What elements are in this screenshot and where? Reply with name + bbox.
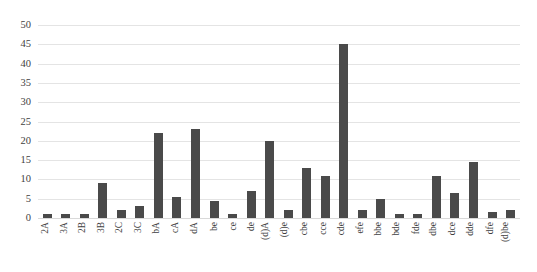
x-tick-label: dA	[190, 222, 200, 234]
x-tick-slot: efe	[353, 219, 372, 272]
x-tick-label: cbe	[300, 222, 310, 235]
x-tick-label: cde	[337, 222, 347, 235]
bar-slot	[149, 25, 168, 218]
bar[interactable]	[358, 210, 367, 218]
x-tick-slot: bde	[390, 219, 409, 272]
bar[interactable]	[321, 176, 330, 218]
x-tick-label: (d)be	[501, 222, 511, 242]
bar-slot	[75, 25, 94, 218]
x-tick-slot: bA	[149, 219, 168, 272]
y-tick-label: 45	[21, 39, 32, 50]
x-tick-slot: dde	[464, 219, 483, 272]
bar[interactable]	[172, 197, 181, 218]
x-tick-slot: be	[205, 219, 224, 272]
x-tick-label: 2B	[79, 222, 89, 233]
bar-slot	[372, 25, 391, 218]
x-tick-slot: bbe	[372, 219, 391, 272]
x-tick-label: bbe	[374, 222, 384, 236]
x-tick-slot: (d)be	[501, 219, 520, 272]
bar-slot	[427, 25, 446, 218]
bar-slot	[409, 25, 428, 218]
bar[interactable]	[98, 183, 107, 218]
bar[interactable]	[247, 191, 256, 218]
y-tick-label: 30	[21, 97, 32, 108]
bar[interactable]	[432, 176, 441, 218]
x-tick-slot: dA	[186, 219, 205, 272]
bar[interactable]	[450, 193, 459, 218]
x-tick-label: cA	[171, 222, 181, 233]
x-tick-label: bA	[153, 222, 163, 234]
bar[interactable]	[80, 214, 89, 218]
y-tick-label: 25	[21, 116, 32, 127]
bar[interactable]	[43, 214, 52, 218]
plot-area	[38, 25, 520, 218]
bar-slot	[57, 25, 76, 218]
x-tick-label: efe	[356, 222, 366, 234]
y-axis: 05101520253035404550	[0, 0, 38, 272]
bar-slot	[464, 25, 483, 218]
bar-slot	[297, 25, 316, 218]
bar[interactable]	[191, 129, 200, 218]
x-tick-label: be	[210, 222, 220, 231]
bar-slot	[168, 25, 187, 218]
bar-slot	[390, 25, 409, 218]
x-tick-label: (d)e	[281, 222, 291, 237]
x-tick-label: ce	[228, 222, 238, 230]
x-tick-slot: cce	[316, 219, 335, 272]
y-tick-label: 35	[21, 78, 32, 89]
bar[interactable]	[284, 210, 293, 218]
x-tick-slot: dce	[446, 219, 465, 272]
x-tick-slot: cde	[335, 219, 354, 272]
bar[interactable]	[228, 214, 237, 218]
bars-layer	[38, 25, 520, 218]
x-tick-slot: ce	[223, 219, 242, 272]
x-tick-slot: de	[242, 219, 261, 272]
x-tick-slot: cbe	[297, 219, 316, 272]
x-tick-slot: 3A	[57, 219, 76, 272]
bar-slot	[260, 25, 279, 218]
x-axis: 2A3A2B3B2C3CbAcAdAbecede(d)A(d)ecbeccecd…	[38, 219, 520, 272]
bar[interactable]	[488, 212, 497, 218]
x-tick-slot: dfe	[483, 219, 502, 272]
x-tick-slot: 2A	[38, 219, 57, 272]
bar[interactable]	[376, 199, 385, 218]
bar-slot	[353, 25, 372, 218]
y-tick-label: 10	[21, 174, 32, 185]
x-tick-label: bde	[393, 222, 403, 236]
bar-slot	[38, 25, 57, 218]
x-tick-label: de	[247, 222, 257, 231]
bar-slot	[242, 25, 261, 218]
bar[interactable]	[413, 214, 422, 218]
y-tick-label: 0	[26, 213, 31, 224]
x-tick-label: 3C	[134, 222, 144, 233]
bar[interactable]	[61, 214, 70, 218]
x-tick-slot: dbe	[427, 219, 446, 272]
x-tick-label: (d)A	[261, 222, 271, 240]
x-tick-slot: fde	[409, 219, 428, 272]
bar-slot	[501, 25, 520, 218]
y-tick-label: 50	[21, 20, 32, 31]
bar[interactable]	[154, 133, 163, 218]
x-tick-slot: (d)A	[260, 219, 279, 272]
x-tick-slot: 3C	[131, 219, 150, 272]
bar[interactable]	[339, 44, 348, 218]
bar-slot	[316, 25, 335, 218]
x-tick-label: 3A	[60, 222, 70, 234]
bar[interactable]	[506, 210, 515, 218]
x-tick-slot: 3B	[94, 219, 113, 272]
bar[interactable]	[395, 214, 404, 218]
x-tick-slot: 2B	[75, 219, 94, 272]
bar[interactable]	[135, 206, 144, 218]
bar[interactable]	[302, 168, 311, 218]
bar[interactable]	[265, 141, 274, 218]
bar[interactable]	[469, 162, 478, 218]
bar-slot	[205, 25, 224, 218]
bar[interactable]	[210, 201, 219, 218]
bar[interactable]	[117, 210, 126, 218]
x-tick-label: 2C	[116, 222, 126, 233]
x-tick-label: dbe	[430, 222, 440, 236]
x-tick-label: cce	[319, 222, 329, 235]
x-tick-slot: 2C	[112, 219, 131, 272]
x-tick-label: 3B	[97, 222, 107, 233]
x-tick-slot: (d)e	[279, 219, 298, 272]
